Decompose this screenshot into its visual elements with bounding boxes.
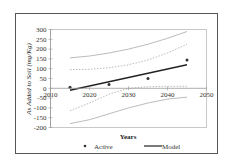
legend-marker-active	[84, 145, 87, 148]
y-tick-label: 50	[40, 75, 48, 83]
y-tick-label: 100	[36, 65, 47, 73]
y-tick-label: 200	[36, 45, 47, 53]
legend-label-model: Model	[162, 143, 180, 151]
x-tick-label: 2010	[44, 91, 59, 99]
data-point-active	[186, 58, 189, 61]
legend-label-active: Active	[94, 143, 113, 151]
y-tick-label: -150	[34, 114, 47, 122]
y-tick-label: -100	[34, 104, 47, 112]
chart-frame	[16, 14, 218, 154]
x-tick-label: 2020	[83, 91, 98, 99]
x-tick-label: 2050	[200, 91, 215, 99]
y-tick-label: -200	[34, 124, 47, 132]
x-axis-title: Years	[120, 133, 137, 141]
y-axis-title: As Added to Soil (mg/Kg)	[25, 43, 33, 116]
x-tick-label: 2030	[122, 91, 137, 99]
data-point-active	[108, 83, 111, 86]
chart: 300250200150100500-50-100-150-2002010202…	[0, 0, 228, 167]
x-tick-label: 2040	[161, 91, 176, 99]
y-tick-label: 300	[36, 26, 47, 34]
y-tick-label: 150	[36, 55, 47, 63]
data-point-active	[147, 77, 150, 80]
y-tick-label: 250	[36, 36, 47, 44]
